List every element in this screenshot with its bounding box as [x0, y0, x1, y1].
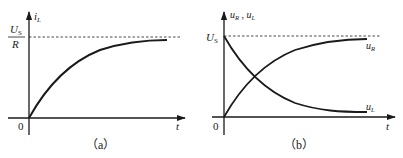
asymptote-label-a: US R [8, 23, 25, 50]
curve-iL [29, 40, 167, 118]
panel-a: iL US R 0 t （a） [8, 10, 185, 152]
curve-label-uR: uR [366, 40, 375, 52]
x-axis-label-b: t [386, 120, 390, 132]
curve-uR [224, 39, 367, 117]
svg-text:R: R [11, 38, 19, 50]
caption-a: （a） [86, 138, 115, 152]
panel-b: uR , uL US uR uL 0 t （b） [206, 9, 395, 152]
y-axis-label-b: uR , uL [230, 9, 255, 21]
curve-label-uL: uL [366, 101, 375, 113]
caption-b: （b） [284, 138, 314, 152]
svg-text:US: US [10, 23, 22, 37]
curve-uL [224, 36, 367, 112]
origin-label-a: 0 [18, 120, 24, 132]
origin-label-b: 0 [213, 120, 219, 132]
y-axis-label-a: iL [34, 10, 41, 24]
x-axis-label-a: t [176, 120, 180, 132]
rl-transient-figure: iL US R 0 t （a） uR , uL US uR uL [0, 0, 403, 158]
asymptote-label-b: US [206, 31, 218, 45]
